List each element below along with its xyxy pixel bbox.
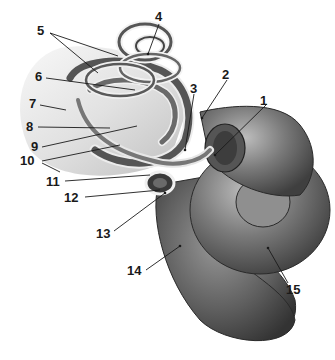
label-10: 10	[20, 154, 34, 167]
label-12: 12	[64, 191, 78, 204]
label-9: 9	[31, 140, 38, 153]
label-5: 5	[37, 24, 44, 37]
label-6: 6	[35, 70, 42, 83]
label-13: 13	[96, 227, 110, 240]
label-15: 15	[286, 283, 300, 296]
label-7: 7	[29, 97, 36, 110]
label-2: 2	[222, 68, 229, 81]
label-14: 14	[127, 264, 141, 277]
label-11: 11	[46, 175, 60, 188]
label-8: 8	[26, 120, 33, 133]
label-4: 4	[155, 10, 162, 23]
label-1: 1	[260, 94, 267, 107]
label-3: 3	[190, 82, 197, 95]
